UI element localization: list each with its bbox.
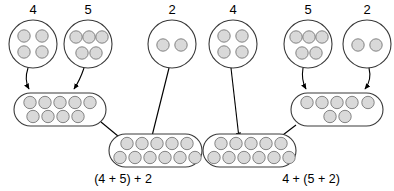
- left-count-label-5: 5: [84, 2, 91, 17]
- counter-dot: [57, 110, 69, 122]
- left-panel: 4 5 2: [9, 2, 202, 186]
- arrow-left-4-to-sum9: [26, 68, 29, 89]
- left-circle-5-outline: [64, 20, 112, 68]
- counter-dot: [24, 96, 36, 108]
- counter-dot: [316, 96, 328, 108]
- counter-dot: [96, 31, 108, 43]
- counter-dot: [166, 137, 178, 149]
- counter-dot: [324, 110, 336, 122]
- counter-dot: [331, 96, 343, 108]
- right-circle-group-2[interactable]: [343, 20, 391, 68]
- counter-dot: [352, 39, 364, 51]
- left-circle-4-outline: [9, 20, 57, 68]
- arrow-left-5-to-sum9: [74, 68, 84, 89]
- counter-dot: [370, 39, 382, 51]
- counter-dot: [189, 151, 201, 163]
- counter-dot: [301, 96, 313, 108]
- associative-property-diagram: 4 5 2: [0, 0, 394, 191]
- counter-dot: [39, 96, 51, 108]
- counter-dot: [316, 31, 328, 43]
- right-panel: 4 5 2: [203, 2, 391, 186]
- counter-dot: [157, 39, 169, 51]
- counter-dot: [268, 151, 280, 163]
- diagram-canvas: 4 5 2: [0, 0, 394, 191]
- arrow-right-4-to-sum11: [231, 68, 239, 138]
- right-count-label-5: 5: [304, 2, 311, 17]
- left-circle-group-4[interactable]: [9, 20, 57, 68]
- counter-dot: [76, 47, 88, 59]
- counter-dot: [215, 137, 227, 149]
- counter-dot: [18, 30, 30, 42]
- counter-dot: [238, 151, 250, 163]
- left-circle-2-outline: [148, 20, 196, 68]
- counter-dot: [245, 137, 257, 149]
- counter-dot: [174, 151, 186, 163]
- left-count-label-4: 4: [29, 2, 36, 17]
- counter-dot: [283, 151, 295, 163]
- counter-dot: [223, 151, 235, 163]
- counter-dot: [83, 31, 95, 43]
- arrow-right-5-to-sum7: [302, 68, 306, 89]
- arrow-right-2-to-sum7: [365, 68, 370, 89]
- counter-dot: [290, 31, 302, 43]
- right-count-label-4: 4: [229, 2, 236, 17]
- counter-dot: [339, 110, 351, 122]
- counter-dot: [260, 137, 272, 149]
- counter-dot: [218, 30, 230, 42]
- counter-dot: [42, 110, 54, 122]
- counter-dot: [218, 46, 230, 58]
- counter-dot: [275, 137, 287, 149]
- counter-dot: [181, 137, 193, 149]
- right-result-group-11[interactable]: [203, 134, 296, 167]
- counter-dot: [236, 30, 248, 42]
- counter-dot: [151, 137, 163, 149]
- counter-dot: [296, 47, 308, 59]
- counter-dot: [362, 96, 374, 108]
- left-sum-group-9[interactable]: [14, 93, 106, 126]
- counter-dot: [253, 151, 265, 163]
- counter-dot: [346, 96, 358, 108]
- counter-dot: [18, 46, 30, 58]
- counter-dot: [208, 151, 220, 163]
- counter-dot: [36, 46, 48, 58]
- right-sum-group-7[interactable]: [291, 93, 383, 126]
- left-expression-label: (4 + 5) + 2: [94, 172, 152, 186]
- left-circle-group-5[interactable]: [64, 20, 112, 68]
- arrow-left-2-to-sum11: [151, 68, 169, 140]
- counter-dot: [90, 47, 102, 59]
- counter-dot: [69, 96, 81, 108]
- left-circle-group-2[interactable]: [148, 20, 196, 68]
- counter-dot: [114, 151, 126, 163]
- counter-dot: [36, 30, 48, 42]
- right-circle-group-4[interactable]: [209, 20, 257, 68]
- counter-dot: [144, 151, 156, 163]
- counter-dot: [70, 31, 82, 43]
- counter-dot: [84, 96, 96, 108]
- counter-dot: [175, 39, 187, 51]
- right-circle-group-5[interactable]: [284, 20, 332, 68]
- right-circle-4-outline: [209, 20, 257, 68]
- counter-dot: [136, 137, 148, 149]
- right-circle-5-outline: [284, 20, 332, 68]
- counter-dot: [230, 137, 242, 149]
- right-expression-label: 4 + (5 + 2): [282, 172, 340, 186]
- counter-dot: [303, 31, 315, 43]
- counter-dot: [72, 110, 84, 122]
- counter-dot: [159, 151, 171, 163]
- counter-dot: [310, 47, 322, 59]
- counter-dot: [27, 110, 39, 122]
- left-result-group-11[interactable]: [109, 134, 202, 167]
- counter-dot: [129, 151, 141, 163]
- right-circle-2-outline: [343, 20, 391, 68]
- right-count-label-2: 2: [363, 2, 370, 17]
- left-count-label-2: 2: [168, 2, 175, 17]
- counter-dot: [54, 96, 66, 108]
- counter-dot: [236, 46, 248, 58]
- counter-dot: [121, 137, 133, 149]
